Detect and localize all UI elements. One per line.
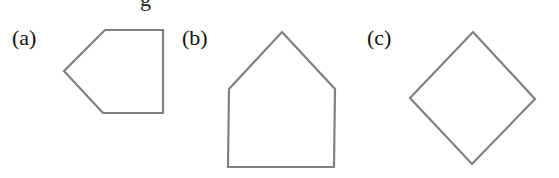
pentagon-b <box>228 32 335 167</box>
figures-canvas <box>0 0 559 178</box>
pentagon-a <box>64 30 163 113</box>
square-c <box>410 32 535 164</box>
